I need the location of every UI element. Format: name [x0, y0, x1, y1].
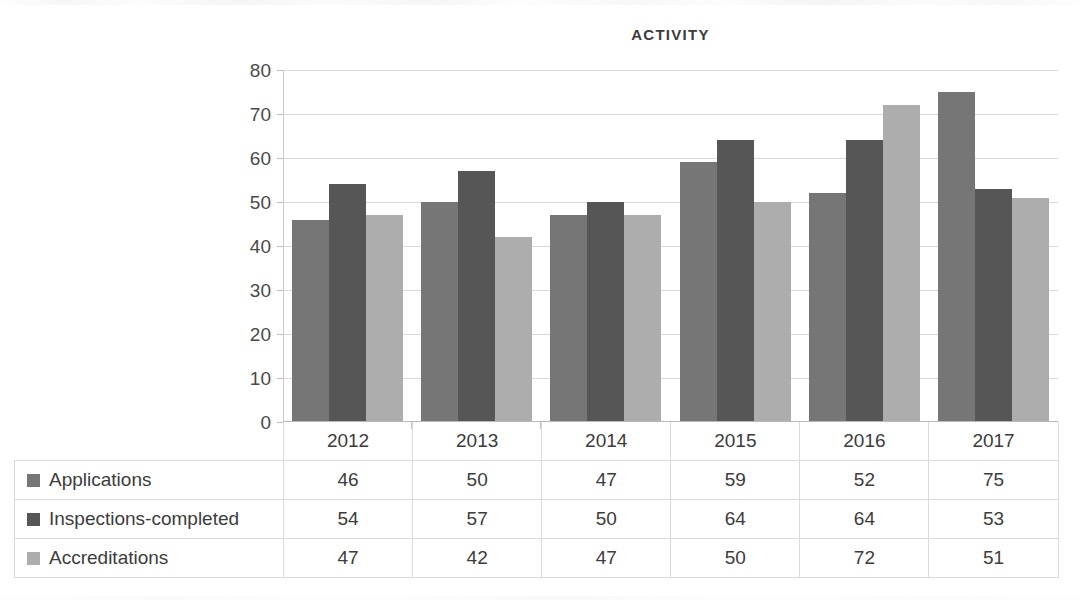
bar — [680, 162, 717, 422]
legend-label: Accreditations — [49, 547, 168, 568]
bar — [366, 215, 403, 422]
table-row: Applications465047595275 — [15, 461, 1059, 500]
legend-swatch-icon — [27, 513, 40, 526]
table-cell: 42 — [413, 539, 542, 578]
scan-artifact-bottom — [0, 596, 1080, 600]
table-cell: 47 — [542, 539, 671, 578]
bar — [754, 202, 791, 422]
bar — [550, 215, 587, 422]
bar — [495, 237, 532, 422]
bar-group-2013 — [412, 70, 541, 422]
bar — [421, 202, 458, 422]
bar — [329, 184, 366, 422]
legend-label: Inspections-completed — [49, 508, 239, 529]
bar — [717, 140, 754, 422]
table-cell: 47 — [284, 539, 413, 578]
table-cell: 59 — [671, 461, 800, 500]
table-cell: 72 — [800, 539, 929, 578]
table-cell: 50 — [671, 539, 800, 578]
y-axis-tick-label: 10 — [211, 369, 271, 388]
bar — [1012, 198, 1049, 422]
table-cell: 52 — [800, 461, 929, 500]
bar-groups — [283, 70, 1058, 422]
legend-label: Applications — [49, 469, 151, 490]
table-column-header-2016: 2016 — [800, 422, 929, 461]
legend-swatch-icon — [27, 474, 40, 487]
bar-group-2016 — [800, 70, 929, 422]
table-cell: 53 — [929, 500, 1058, 539]
bar — [292, 220, 329, 422]
table-column-header-2015: 2015 — [671, 422, 800, 461]
legend-swatch-icon — [27, 552, 40, 565]
y-axis-tick-label: 80 — [211, 61, 271, 80]
table-cell: 64 — [800, 500, 929, 539]
legend-entry: Accreditations — [15, 539, 284, 578]
chart-title: ACTIVITY — [283, 26, 1058, 43]
bar — [624, 215, 661, 422]
bar-group-2017 — [929, 70, 1058, 422]
table-cell: 46 — [284, 461, 413, 500]
table-column-header-2013: 2013 — [413, 422, 542, 461]
table-cell: 54 — [284, 500, 413, 539]
y-axis-tick-label: 70 — [211, 105, 271, 124]
bar — [883, 105, 920, 422]
y-axis-tick-label: 50 — [211, 193, 271, 212]
table-cell: 50 — [413, 461, 542, 500]
legend-entry: Applications — [15, 461, 284, 500]
table-header-row: 201220132014201520162017 — [15, 422, 1059, 461]
bar — [809, 193, 846, 422]
table-row: Accreditations474247507251 — [15, 539, 1059, 578]
scan-artifact-top — [0, 0, 1080, 5]
table-cell: 64 — [671, 500, 800, 539]
y-axis-tick-label: 60 — [211, 149, 271, 168]
table-cell: 50 — [542, 500, 671, 539]
bar — [846, 140, 883, 422]
table-cell: 47 — [542, 461, 671, 500]
legend-entry: Inspections-completed — [15, 500, 284, 539]
y-axis-tick-label: 20 — [211, 325, 271, 344]
table-column-header-2017: 2017 — [929, 422, 1058, 461]
y-axis-tick-label: 30 — [211, 281, 271, 300]
bar — [587, 202, 624, 422]
bar — [458, 171, 495, 422]
y-axis-tick-label: 40 — [211, 237, 271, 256]
bar-group-2012 — [283, 70, 412, 422]
table-cell: 75 — [929, 461, 1058, 500]
bar-group-2014 — [541, 70, 670, 422]
bar — [975, 189, 1012, 422]
table-cell: 57 — [413, 500, 542, 539]
table-column-header-2012: 2012 — [284, 422, 413, 461]
table-column-header-2014: 2014 — [542, 422, 671, 461]
table-corner-cell — [15, 422, 284, 461]
table-cell: 51 — [929, 539, 1058, 578]
bar — [938, 92, 975, 422]
data-table: 201220132014201520162017 Applications465… — [14, 422, 1059, 578]
chart-plot-area: 80706050403020100 — [283, 70, 1058, 422]
bar-group-2015 — [671, 70, 800, 422]
table-row: Inspections-completed545750646453 — [15, 500, 1059, 539]
